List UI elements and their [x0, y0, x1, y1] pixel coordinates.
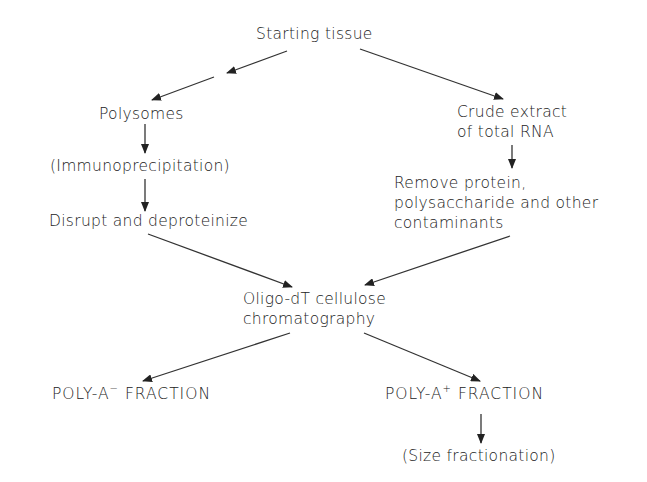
node-polyA-plus-fraction: POLY-A+ FRACTION [385, 385, 544, 404]
node-disrupt-deproteinize: Disrupt and deproteinize [49, 212, 248, 231]
node-remove-line2: polysaccharide and other [394, 194, 598, 213]
node-polyA-minus-fraction: POLY-A− FRACTION [52, 385, 211, 404]
node-remove-line3: contaminants [394, 214, 504, 233]
arrow-disrupt-to-oligo [148, 234, 292, 287]
node-remove-line1: Remove protein, [394, 174, 526, 193]
arrow-start-to-polysomes-b [152, 77, 214, 100]
node-oligo-line2: chromatography [243, 310, 375, 329]
node-polysomes: Polysomes [99, 105, 184, 124]
node-immunoprecipitation: (Immunoprecipitation) [50, 157, 230, 176]
arrow-remove-to-oligo [365, 236, 510, 285]
node-crude-extract-line1: Crude extract [457, 103, 567, 122]
arrow-oligo-to-polyA-plus [364, 333, 480, 381]
node-starting-tissue: Starting tissue [256, 25, 373, 44]
arrow-start-to-polysomes-a [227, 51, 287, 73]
arrows-layer [0, 0, 647, 482]
node-size-fractionation: (Size fractionation) [402, 447, 556, 466]
arrow-oligo-to-polyA-minus [143, 333, 290, 381]
flowchart-canvas: Starting tissue Polysomes (Immunoprecipi… [0, 0, 647, 482]
arrow-start-to-crude [360, 49, 503, 99]
node-crude-extract-line2: of total RNA [457, 123, 554, 142]
node-oligo-line1: Oligo-dT cellulose [243, 290, 386, 309]
